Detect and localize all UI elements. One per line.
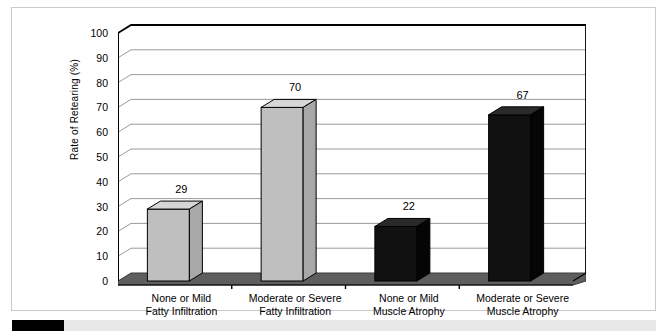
bar-3 [489, 107, 544, 281]
bar-2 [375, 218, 430, 281]
plot-area: 29702267 [118, 24, 586, 289]
gridline-depth-40 [118, 174, 131, 182]
y-tick-label-0: 0 [82, 276, 108, 286]
x-category-label-line: Moderate or Severe [230, 292, 360, 305]
x-category-label-1: Moderate or SevereFatty Infiltration [230, 292, 360, 318]
y-tick-label-60: 60 [82, 127, 108, 137]
footer-bar-black-marker [12, 320, 64, 331]
bar-0 [147, 201, 202, 281]
bar-side-face [531, 107, 544, 281]
x-category-label-line: Muscle Atrophy [344, 305, 474, 318]
bar-side-face [417, 218, 430, 281]
bar-value-label: 70 [275, 81, 315, 93]
bar-value-label: 22 [389, 200, 429, 212]
bar-value-label: 67 [503, 89, 543, 101]
gridline-depth-30 [118, 199, 131, 207]
bar-front-face [147, 209, 189, 281]
x-category-label-line: Fatty Infiltration [230, 305, 360, 318]
figure-container: Rate of Retearing (%) 100908070605040302… [0, 0, 671, 334]
y-tick-label-90: 90 [82, 53, 108, 63]
bar-front-face [261, 107, 303, 281]
x-category-label-line: Muscle Atrophy [458, 305, 588, 318]
chart-svg [118, 24, 586, 289]
gridline-depth-20 [118, 223, 131, 231]
y-axis-tick-labels: 1009080706050403020100 [78, 24, 108, 289]
y-tick-label-30: 30 [82, 202, 108, 212]
y-tick-label-10: 10 [82, 251, 108, 261]
y-tick-label-100: 100 [82, 28, 108, 38]
gridline-depth-80 [118, 75, 131, 83]
y-tick-label-50: 50 [82, 152, 108, 162]
x-category-label-2: None or MildMuscle Atrophy [344, 292, 474, 318]
gridline-depth-70 [118, 99, 131, 107]
gridline-depth-60 [118, 124, 131, 132]
x-category-label-line: None or Mild [344, 292, 474, 305]
footer-bar [12, 320, 656, 331]
bar-front-face [375, 226, 417, 281]
y-tick-label-40: 40 [82, 177, 108, 187]
x-category-label-line: Fatty Infiltration [116, 305, 246, 318]
bar-side-face [303, 99, 316, 281]
gridline-depth-50 [118, 149, 131, 157]
bar-side-face [189, 201, 202, 281]
y-tick-label-70: 70 [82, 102, 108, 112]
bar-front-face [489, 115, 531, 281]
y-tick-label-20: 20 [82, 226, 108, 236]
y-tick-label-80: 80 [82, 78, 108, 88]
x-category-label-line: Moderate or Severe [458, 292, 588, 305]
x-category-label-0: None or MildFatty Infiltration [116, 292, 246, 318]
gridline-depth-10 [118, 248, 131, 256]
x-category-label-3: Moderate or SevereMuscle Atrophy [458, 292, 588, 318]
x-category-label-line: None or Mild [116, 292, 246, 305]
bar-value-label: 29 [161, 183, 201, 195]
bar-1 [261, 99, 316, 281]
gridline-depth-90 [118, 50, 131, 58]
